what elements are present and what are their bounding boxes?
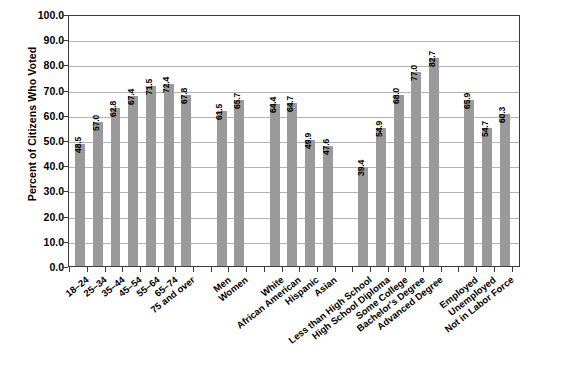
x-tick-mark (423, 267, 424, 272)
bar (111, 108, 121, 266)
y-tick-label: 90.0 (4, 34, 64, 46)
x-tick-mark (246, 267, 247, 272)
y-tick-label: 50.0 (4, 135, 64, 147)
x-tick-mark (282, 267, 283, 272)
y-tick-label: 80.0 (4, 59, 64, 71)
bar-value-label: 60.3 (497, 107, 507, 123)
x-tick-mark (175, 267, 176, 272)
x-tick-mark (512, 267, 513, 272)
bar-value-label: 65.7 (232, 93, 242, 109)
bar (75, 144, 85, 266)
bar-value-label: 67.8 (179, 88, 189, 104)
x-tick-mark (370, 267, 371, 272)
bar (181, 95, 191, 266)
x-tick-mark (140, 267, 141, 272)
x-tick-mark (87, 267, 88, 272)
plot-area: 48.557.062.867.471.572.467.861.565.764.4… (68, 15, 520, 267)
y-tick-label: 30.0 (4, 185, 64, 197)
bar (411, 72, 421, 266)
bar-value-label: 54.7 (480, 121, 490, 137)
bar-value-label: 64.4 (268, 97, 278, 113)
x-tick-mark (458, 267, 459, 272)
x-tick-mark (388, 267, 389, 272)
bar-value-label: 39.4 (356, 160, 366, 176)
bar (323, 146, 333, 266)
bar (464, 100, 474, 266)
bar-value-label: 67.4 (126, 89, 136, 105)
bar-value-label: 61.5 (214, 104, 224, 120)
bar (394, 95, 404, 266)
y-tick-label: 40.0 (4, 160, 64, 172)
bar (93, 122, 103, 266)
bar-value-label: 68.0 (391, 87, 401, 103)
y-tick-label: 0.0 (4, 261, 64, 273)
bar-value-label: 57.0 (91, 115, 101, 131)
y-tick-label: 10.0 (4, 236, 64, 248)
bar (376, 128, 386, 266)
bar (305, 140, 315, 266)
x-tick-mark (299, 267, 300, 272)
x-tick-mark (211, 267, 212, 272)
x-tick-mark (476, 267, 477, 272)
bar-value-label: 71.5 (144, 79, 154, 95)
bar (358, 167, 368, 266)
bar-value-label: 77.0 (409, 65, 419, 81)
bar (429, 58, 439, 266)
x-tick-mark (405, 267, 406, 272)
gridline (69, 66, 519, 67)
gridline (69, 92, 519, 93)
voter-turnout-bar-chart: Percent of Citizens Who Voted 100.090.08… (0, 0, 588, 384)
gridline (69, 41, 519, 42)
bar (146, 86, 156, 266)
bar (270, 104, 280, 266)
bar-value-label: 62.8 (108, 101, 118, 117)
x-tick-mark (122, 267, 123, 272)
bar (217, 111, 227, 266)
bar-value-label: 64.7 (285, 96, 295, 112)
x-tick-mark (158, 267, 159, 272)
bar-value-label: 49.9 (303, 133, 313, 149)
x-tick-mark (352, 267, 353, 272)
bar (128, 96, 138, 266)
bar (164, 84, 174, 266)
x-tick-mark (494, 267, 495, 272)
bar-value-label: 82.7 (427, 50, 437, 66)
y-tick-label: 70.0 (4, 85, 64, 97)
bar (287, 103, 297, 266)
bar (234, 100, 244, 266)
bar (482, 128, 492, 266)
y-tick-label: 100.0 (4, 9, 64, 21)
x-tick-mark (264, 267, 265, 272)
bar-value-label: 72.4 (161, 76, 171, 92)
x-tick-mark (69, 267, 70, 272)
bar-value-label: 65.9 (462, 93, 472, 109)
y-tick-label: 20.0 (4, 211, 64, 223)
bar-value-label: 48.5 (73, 137, 83, 153)
bar-value-label: 47.6 (321, 139, 331, 155)
bar (500, 114, 510, 266)
x-tick-mark (228, 267, 229, 272)
y-tick-label: 60.0 (4, 110, 64, 122)
x-tick-mark (441, 267, 442, 272)
bar-value-label: 54.9 (374, 120, 384, 136)
y-tick-mark (62, 267, 68, 268)
x-tick-mark (105, 267, 106, 272)
x-tick-mark (335, 267, 336, 272)
x-tick-mark (317, 267, 318, 272)
x-tick-mark (193, 267, 194, 272)
